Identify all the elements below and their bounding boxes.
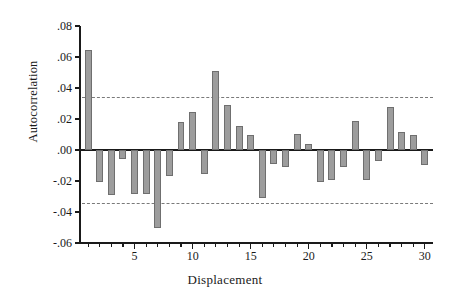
upper-confidence-limit <box>82 97 433 98</box>
bar-lag-4 <box>119 150 126 159</box>
autocorrelation-chart: Autocorrelation .08.06.04.02.00-.02-.04-… <box>0 0 450 302</box>
bar-lag-16 <box>259 150 266 198</box>
bar-lag-24 <box>352 121 359 150</box>
bar-lag-20 <box>305 144 312 150</box>
y-axis-tick-label: .00 <box>38 145 72 155</box>
bar-lag-27 <box>387 107 394 150</box>
y-axis-tick-label: .08 <box>38 21 72 31</box>
bar-lag-8 <box>166 150 173 176</box>
bar-lag-5 <box>131 150 138 194</box>
bar-lag-9 <box>178 122 185 150</box>
bar-lag-28 <box>398 132 405 150</box>
x-axis-tick-label: 5 <box>120 249 150 264</box>
x-axis-title: Displacement <box>0 272 450 288</box>
lower-confidence-limit <box>82 203 433 204</box>
x-axis-tick-label: 25 <box>352 249 382 264</box>
y-axis-tick-label: .02 <box>38 114 72 124</box>
bar-lag-15 <box>247 135 254 150</box>
bar-lag-30 <box>421 150 428 165</box>
bar-lag-14 <box>236 126 243 150</box>
y-axis-tick-label: -.04 <box>38 207 72 217</box>
bar-lag-11 <box>201 150 208 174</box>
bar-lag-21 <box>317 150 324 182</box>
bar-lag-13 <box>224 105 231 150</box>
x-axis-tick-label: 20 <box>294 249 324 264</box>
bar-lag-12 <box>212 71 219 150</box>
bar-lag-22 <box>328 150 335 180</box>
bar-lag-26 <box>375 150 382 161</box>
y-axis-tick-label: -.06 <box>38 238 72 248</box>
y-axis-tick-label: .06 <box>38 52 72 62</box>
bar-lag-6 <box>143 150 150 194</box>
bar-lag-18 <box>282 150 289 167</box>
bar-lag-1 <box>85 50 92 150</box>
bar-lag-23 <box>340 150 347 167</box>
x-axis-tick-label: 10 <box>178 249 208 264</box>
y-axis-tick-label: .04 <box>38 83 72 93</box>
x-axis-tick-label: 30 <box>410 249 440 264</box>
bar-lag-3 <box>108 150 115 195</box>
bar-lag-19 <box>294 134 301 150</box>
y-axis-tick-label: -.02 <box>38 176 72 186</box>
x-axis-tick-label: 15 <box>236 249 266 264</box>
bar-lag-2 <box>96 150 103 182</box>
bar-lag-7 <box>154 150 161 228</box>
bar-lag-25 <box>363 150 370 180</box>
bar-lag-10 <box>189 112 196 150</box>
bar-lag-17 <box>270 150 277 164</box>
bar-lag-29 <box>410 135 417 150</box>
